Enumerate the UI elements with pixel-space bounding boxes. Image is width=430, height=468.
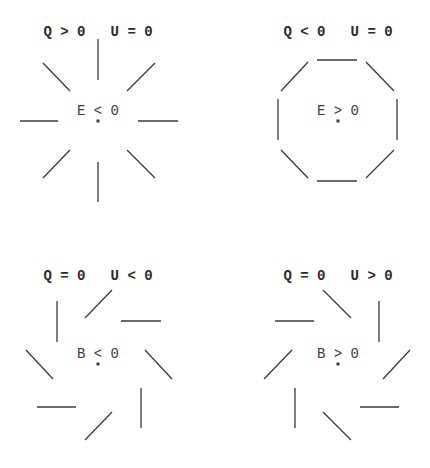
polarization-vector-segment [323, 412, 351, 440]
center-label: E < 0 [77, 103, 119, 119]
panel-bottom-left: Q = 0 U < 0 B < 0 [26, 268, 172, 440]
panel-title: Q < 0 U = 0 [283, 24, 392, 40]
polarization-vector-segment [85, 290, 112, 318]
polarization-vector-segment [26, 350, 53, 379]
center-label: B < 0 [77, 346, 119, 362]
panel-top-left: Q > 0 U = 0 E < 0 [20, 24, 178, 202]
center-point-icon [337, 363, 340, 366]
polarization-vector-segment [43, 150, 70, 178]
panel-title: Q > 0 U = 0 [43, 24, 152, 40]
panel-title: Q = 0 U > 0 [283, 268, 392, 284]
center-point-icon [337, 120, 340, 123]
center-point-icon [97, 120, 100, 123]
polarization-vector-segment [145, 350, 172, 379]
polarization-vector-segment [281, 150, 308, 178]
center-label: E > 0 [317, 103, 359, 119]
center-point-icon [97, 363, 100, 366]
panel-title: Q = 0 U < 0 [43, 268, 152, 284]
polarization-vector-segment [264, 350, 292, 379]
polarization-vector-segment [85, 412, 112, 440]
polarization-vector-segment [127, 63, 155, 91]
panel-top-right: Q < 0 U = 0 E > 0 [278, 24, 397, 181]
panel-bottom-right: Q = 0 U > 0 B > 0 [264, 268, 410, 440]
polarization-vector-segment [43, 63, 70, 91]
polarization-vector-segment [127, 150, 155, 178]
polarization-vector-segment [366, 62, 394, 91]
polarization-pattern-diagram: Q > 0 U = 0 E < 0 Q < 0 U = 0 E > 0 Q = … [0, 0, 430, 468]
polarization-vector-segment [366, 150, 394, 178]
center-label: B > 0 [317, 346, 359, 362]
polarization-vector-segment [383, 350, 410, 379]
polarization-vector-segment [323, 290, 351, 318]
polarization-vector-segment [281, 62, 308, 91]
